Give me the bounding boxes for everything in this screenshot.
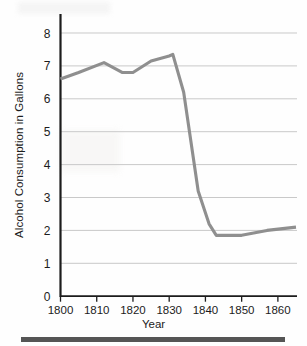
y-tick-label-2: 2 [44,224,51,238]
y-axis-title: Alcohol Consumption in Gallons [13,72,25,238]
x-tick-label-1850: 1850 [229,304,255,316]
y-tick-labels-group: 012345678 [44,27,51,304]
x-axis-title: Year [0,318,307,330]
footer-rule [21,337,285,342]
x-tick-label-1840: 1840 [193,304,219,316]
x-tick-label-1800: 1800 [48,304,74,316]
y-tick-label-7: 7 [44,59,51,73]
x-tick-labels-group: 1800181018201830184018501860 [48,304,291,316]
y-tick-label-1: 1 [44,257,51,271]
y-tick-label-6: 6 [44,92,51,106]
y-tick-label-8: 8 [44,27,51,41]
gridlines-group [61,33,298,263]
y-tick-label-3: 3 [44,191,51,205]
data-series-line [61,54,297,235]
chart-figure: 012345678 1800181018201830184018501860 A… [0,0,307,346]
line-chart: 012345678 1800181018201830184018501860 [0,0,307,346]
x-tick-label-1820: 1820 [120,304,146,316]
y-tick-label-5: 5 [44,125,51,139]
x-tick-label-1830: 1830 [156,304,182,316]
y-axis-title-wrap: Alcohol Consumption in Gallons [2,0,36,310]
y-tick-label-4: 4 [44,158,51,172]
x-tick-label-1810: 1810 [84,304,110,316]
y-tick-label-0: 0 [44,290,51,304]
x-tick-label-1860: 1860 [265,304,291,316]
